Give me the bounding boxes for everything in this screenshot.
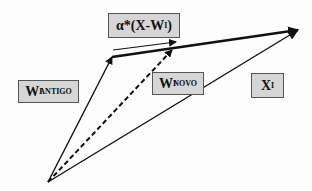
x-input-base: X xyxy=(261,78,271,94)
w-new-base: W xyxy=(159,76,173,92)
w-new-label: WINOVO xyxy=(152,72,204,95)
vector-diagram: α*(X-WI) WIANTIGO WINOVO XI xyxy=(0,0,312,191)
w-new-vector xyxy=(48,50,172,182)
update-term-prefix: α*(X-W xyxy=(116,18,164,34)
update-term-suffix: ) xyxy=(167,18,172,34)
w-new-superscript: NOVO xyxy=(173,79,197,88)
x-input-label: XI xyxy=(251,73,284,98)
x-vector xyxy=(48,30,298,182)
w-old-base: W xyxy=(25,84,39,100)
w-old-superscript: ANTIGO xyxy=(39,87,71,96)
update-term-label: α*(X-WI) xyxy=(108,13,180,38)
w-old-label: WIANTIGO xyxy=(18,80,79,103)
x-input-subscript: I xyxy=(271,81,274,90)
